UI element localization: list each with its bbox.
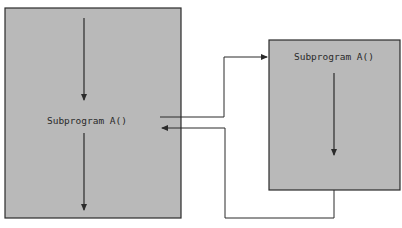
called-subprogram-label: Subprogram A()	[294, 51, 374, 62]
called-subprogram-box: Subprogram A()	[269, 40, 400, 190]
main-program-label: Subprogram A()	[47, 115, 127, 126]
main-program-box: Subprogram A()	[5, 8, 181, 218]
subprogram-call-diagram: Subprogram A() Subprogram A()	[0, 0, 402, 228]
